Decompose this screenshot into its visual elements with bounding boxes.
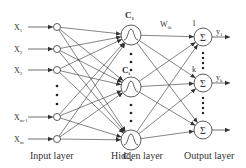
input-hidden-edge <box>60 27 121 34</box>
input-node <box>54 24 61 31</box>
ellipsis-dot <box>202 57 204 59</box>
input-hidden-edge <box>59 52 124 133</box>
input-hidden-edge <box>59 30 126 132</box>
sigma-icon: Σ <box>200 125 206 136</box>
input-hidden-edge <box>60 93 123 137</box>
hidden-output-edge <box>141 83 194 86</box>
hidden-node <box>121 130 141 150</box>
hidden-label-1: C1 <box>125 10 135 21</box>
nodes: ΣΣΣ <box>54 24 213 151</box>
input-node <box>54 46 61 53</box>
ellipsis-dot <box>202 112 204 114</box>
hidden-layer-label: Hidden layer <box>111 150 163 161</box>
ellipsis-dot <box>56 103 59 106</box>
input-label-4: Xm-1 <box>14 113 28 123</box>
input-label-2: X2 <box>14 45 23 55</box>
input-hidden-edge <box>60 139 121 140</box>
ellipsis-dot <box>130 61 133 64</box>
ellipsis-dot <box>130 112 133 115</box>
hidden-node <box>121 25 141 45</box>
input-label-3: X3 <box>14 66 23 76</box>
input-layer-label: Input layer <box>30 150 74 161</box>
output-index-1: 1 <box>192 19 196 28</box>
ellipsis-dot <box>202 107 204 109</box>
output-label-2: yk <box>216 73 223 83</box>
hidden-output-edge <box>137 44 198 131</box>
hidden-output-edge <box>141 35 194 36</box>
input-hidden-edge <box>59 43 125 136</box>
input-node <box>54 136 61 143</box>
output-label-1: y1 <box>216 27 223 37</box>
input-hidden-edge <box>60 37 121 48</box>
hidden-node <box>121 77 141 97</box>
input-label-5: Xm <box>14 135 24 145</box>
ellipsis-dot <box>130 53 133 56</box>
ellipsis-dot <box>202 67 204 69</box>
ellipsis-dot <box>202 102 204 104</box>
input-hidden-edge <box>60 71 121 85</box>
input-hidden-edge <box>60 39 122 68</box>
output-index-2: k <box>192 65 196 74</box>
input-node <box>54 114 61 121</box>
input-node <box>54 67 61 74</box>
ellipsis-dot <box>130 120 133 123</box>
hidden-label-i: Ci <box>122 65 131 76</box>
sigma-icon: Σ <box>200 78 206 89</box>
sigma-icon: Σ <box>200 32 206 43</box>
hidden-output-edge <box>137 43 198 123</box>
hidden-output-edge <box>139 42 195 81</box>
ellipsis-dot <box>56 85 59 88</box>
hidden-output-edge <box>141 131 194 138</box>
input-hidden-edge <box>60 118 121 137</box>
ellipsis-dot <box>202 52 204 54</box>
output-layer-label: Output layer <box>184 150 234 161</box>
ellipsis-dot <box>202 62 204 64</box>
hidden-output-edge <box>139 89 196 134</box>
ellipsis-dot <box>130 104 133 107</box>
ellipsis-dot <box>202 97 204 99</box>
weight-label: Wik <box>160 20 172 30</box>
ellipsis-dot <box>56 94 59 97</box>
ellipsis-dot <box>130 69 133 72</box>
neural-network-diagram: ΣΣΣ X1X2X3Xm-1XmC1CiCny11ykkWik <box>0 0 246 168</box>
input-label-1: X1 <box>14 23 23 33</box>
